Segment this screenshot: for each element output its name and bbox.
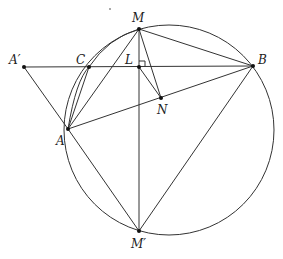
point-l bbox=[137, 65, 141, 69]
circumcircle bbox=[64, 25, 274, 235]
point-a-prime bbox=[22, 65, 26, 69]
label-m-prime: M′ bbox=[130, 237, 146, 251]
label-n: N bbox=[156, 103, 168, 117]
label-l: L bbox=[124, 53, 133, 67]
diagram-canvas: A′ C L B M N A M′ bbox=[0, 0, 283, 259]
label-b: B bbox=[257, 53, 267, 67]
point-m-prime bbox=[137, 229, 141, 233]
geometry-diagram: A′ C L B M N A M′ bbox=[0, 0, 283, 259]
label-c: C bbox=[76, 53, 85, 67]
segment-m-b bbox=[139, 29, 253, 66]
segment-l-n bbox=[139, 67, 161, 98]
label-m: M bbox=[131, 11, 145, 25]
point-c bbox=[87, 65, 91, 69]
segment-m-n bbox=[139, 29, 161, 98]
segment-a-m bbox=[68, 29, 139, 129]
label-a-prime: A′ bbox=[8, 53, 21, 67]
point-n bbox=[159, 96, 163, 100]
segment-a-m-prime bbox=[68, 129, 139, 231]
stray-dot bbox=[109, 8, 110, 9]
label-a: A bbox=[55, 134, 65, 148]
segment-a-prime-a bbox=[24, 67, 68, 129]
point-a bbox=[66, 127, 70, 131]
point-b bbox=[251, 64, 255, 68]
point-m bbox=[137, 27, 141, 31]
